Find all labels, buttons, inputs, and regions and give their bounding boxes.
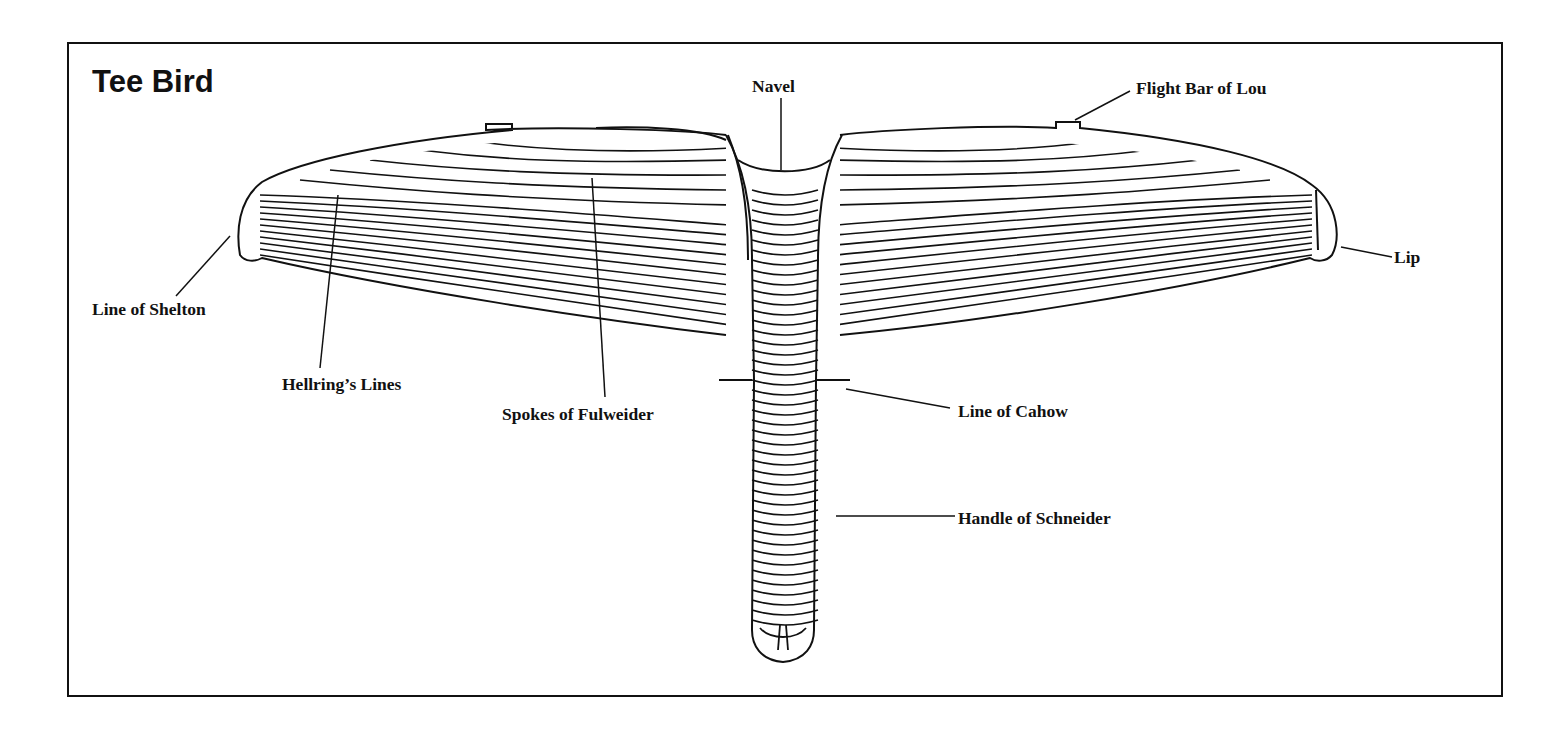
- label-line-of-shelton: Line of Shelton: [92, 299, 206, 320]
- stem-hatching: [752, 190, 818, 625]
- leader-lines: [176, 91, 1392, 516]
- label-lip: Lip: [1394, 247, 1420, 268]
- label-flight-bar-of-lou: Flight Bar of Lou: [1136, 78, 1266, 99]
- leader-lip: [1341, 247, 1392, 257]
- label-hellrings-lines: Hellring’s Lines: [282, 374, 401, 395]
- stem-tip: [760, 625, 806, 650]
- label-spokes-of-fulweider: Spokes of Fulweider: [502, 404, 654, 425]
- stem-handle: [719, 135, 850, 662]
- label-handle-of-schneider: Handle of Schneider: [958, 508, 1111, 529]
- leader-line-of-cahow: [846, 389, 950, 408]
- leader-flight-bar: [1075, 91, 1130, 120]
- tee-bird-illustration: [0, 0, 1556, 744]
- right-wing-hatching: [836, 142, 1312, 325]
- leader-hellrings-lines: [320, 195, 338, 368]
- label-navel: Navel: [752, 76, 795, 97]
- label-line-of-cahow: Line of Cahow: [958, 401, 1068, 422]
- left-wing-hatching: [260, 142, 730, 325]
- leader-line-of-shelton: [176, 236, 230, 296]
